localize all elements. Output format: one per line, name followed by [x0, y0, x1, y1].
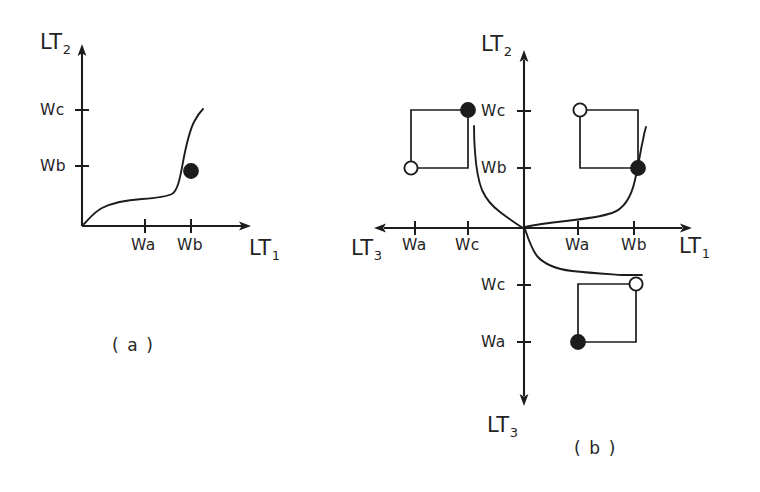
- panel-a-xtick-label-wb: Wb: [177, 238, 203, 254]
- panel-b-group: [374, 50, 692, 406]
- upper-left-loop-filled-marker: [461, 103, 475, 117]
- lower-right-loop-filled-marker: [571, 335, 585, 349]
- figure-root: LT2 Wc Wb Wa Wb LT1 ( a ) LT2 Wc Wb LT3 …: [0, 0, 760, 492]
- panel-b-righttick-label-wa: Wa: [565, 238, 590, 254]
- panel-a-y-axis-label: LT2: [40, 32, 71, 56]
- upper-right-loop: [573, 103, 645, 175]
- panel-b-downtick-label-wa: Wa: [481, 335, 506, 351]
- upper-left-loop: [404, 103, 475, 175]
- upper-right-loop-filled-marker: [631, 161, 645, 175]
- panel-b-up-axis-label: LT2: [481, 34, 512, 58]
- panel-b-right-axis-label: LT1: [679, 236, 710, 260]
- panel-b-caption: ( b ): [574, 440, 617, 457]
- panel-a-caption: ( a ): [112, 337, 155, 354]
- upper-left-loop-open-marker: [404, 161, 417, 174]
- panel-b-uptick-label-wc: Wc: [481, 104, 506, 120]
- panel-b-branch-upper-right: [525, 127, 646, 227]
- panel-b-left-axis-label: LT3: [351, 238, 382, 262]
- panel-a-xtick-label-wa: Wa: [131, 238, 156, 254]
- panel-b-branch-upper-left: [474, 126, 523, 228]
- panel-a-ytick-label-wb: Wb: [40, 159, 66, 175]
- panel-a-x-axis-label: LT1: [249, 238, 280, 262]
- panel-a-y-axis: [78, 44, 87, 226]
- panel-b-lefttick-label-wc: Wc: [455, 238, 480, 254]
- panel-b-downtick-label-wc: Wc: [481, 278, 506, 294]
- lower-right-loop-open-marker: [629, 277, 642, 290]
- panel-b-lefttick-label-wa: Wa: [402, 238, 427, 254]
- panel-a-group: [75, 44, 251, 233]
- lower-right-loop: [571, 277, 643, 349]
- panel-b-down-axis-label: LT3: [487, 415, 518, 439]
- panel-b-righttick-label-wb: Wb: [621, 238, 647, 254]
- panel-b-uptick-label-wb: Wb: [481, 161, 507, 177]
- panel-a-x-axis: [82, 222, 251, 231]
- panel-a-ytick-label-wc: Wc: [40, 103, 65, 119]
- upper-right-loop-open-marker: [573, 103, 586, 116]
- panel-a-state-point: [184, 164, 198, 178]
